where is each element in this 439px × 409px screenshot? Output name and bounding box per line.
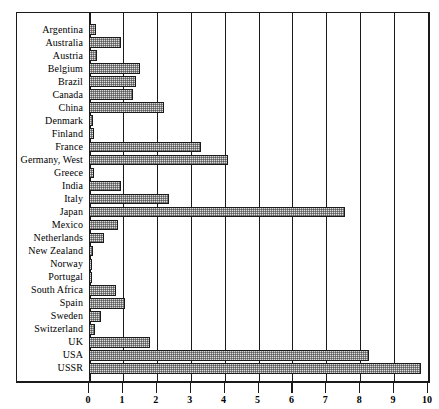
category-label: India [62, 181, 83, 191]
bar-row: India [17, 179, 429, 192]
bar [89, 168, 94, 179]
x-axis-tick-9 [393, 382, 394, 393]
x-axis-tick-label: 8 [357, 394, 362, 406]
category-label: Norway [50, 259, 83, 269]
bar-row: Portugal [17, 271, 429, 284]
bar-row: Brazil [17, 75, 429, 88]
bar [89, 220, 118, 231]
bar-row: Italy [17, 192, 429, 205]
bar-row: Netherlands [17, 232, 429, 245]
bar-chart: ArgentinaAustraliaAustriaBelgiumBrazilCa… [0, 0, 439, 409]
bar-row: China [17, 101, 429, 114]
bar [89, 285, 116, 296]
bar-row: Austria [17, 49, 429, 62]
bar [89, 298, 125, 309]
bar [89, 63, 140, 74]
bar [89, 76, 136, 87]
category-label: Portugal [48, 272, 83, 282]
category-label: Australia [45, 38, 83, 48]
category-label: Denmark [45, 116, 83, 126]
bar-row: USA [17, 349, 429, 362]
category-label: Belgium [48, 64, 83, 74]
x-axis-tick-5 [258, 382, 259, 393]
category-label: USSR [58, 363, 83, 373]
x-axis-tick-label: 9 [391, 394, 396, 406]
bar-row: Germany, West [17, 153, 429, 166]
bar-row: New Zealand [17, 245, 429, 258]
bar-row: Norway [17, 258, 429, 271]
bar-row: France [17, 140, 429, 153]
bar-row: Spain [17, 297, 429, 310]
x-axis-tick-3 [190, 382, 191, 393]
bar-rows: ArgentinaAustraliaAustriaBelgiumBrazilCa… [17, 13, 429, 381]
category-label: Switzerland [34, 324, 83, 334]
x-axis [16, 382, 430, 394]
category-label: New Zealand [28, 246, 83, 256]
x-axis-tick-2 [156, 382, 157, 393]
plot-area: ArgentinaAustraliaAustriaBelgiumBrazilCa… [16, 12, 430, 382]
bar [89, 194, 169, 205]
category-label: Argentina [42, 25, 83, 35]
category-label: Greece [54, 168, 83, 178]
bar-row: Argentina [17, 23, 429, 36]
bar [89, 181, 121, 192]
bar [89, 233, 104, 244]
category-label: USA [63, 350, 83, 360]
x-axis-tick-label: 2 [153, 394, 158, 406]
x-axis-tick-label: 3 [187, 394, 192, 406]
x-axis-tick-label: 4 [221, 394, 226, 406]
bar [89, 363, 421, 374]
bar [89, 37, 121, 48]
bar-row: Canada [17, 88, 429, 101]
x-axis-tick-label: 0 [86, 394, 91, 406]
x-axis-tick-label: 7 [323, 394, 328, 406]
bar [89, 311, 101, 322]
bar-row: Australia [17, 36, 429, 49]
bar-row: Finland [17, 127, 429, 140]
bar-row: Belgium [17, 62, 429, 75]
category-label: Mexico [52, 220, 83, 230]
bar-row: UK [17, 336, 429, 349]
bar [89, 102, 164, 113]
bar [89, 115, 93, 126]
bar-row: Switzerland [17, 323, 429, 336]
category-label: France [55, 142, 83, 152]
bar-row: Japan [17, 206, 429, 219]
bar-row: Sweden [17, 310, 429, 323]
bar [89, 128, 94, 139]
bar [89, 246, 93, 257]
bar [89, 142, 201, 153]
category-label: Netherlands [34, 233, 83, 243]
bar [89, 207, 345, 218]
x-axis-tick-1 [122, 382, 123, 393]
bar [89, 259, 92, 270]
bar-row: South Africa [17, 284, 429, 297]
x-axis-tick-10 [427, 382, 428, 393]
bar-row: Greece [17, 166, 429, 179]
category-label: Canada [52, 90, 83, 100]
bar [89, 337, 150, 348]
x-axis-tick-labels: 012345678910 [16, 394, 430, 408]
bar [89, 350, 369, 361]
x-axis-tick-label: 1 [119, 394, 124, 406]
category-label: UK [68, 337, 83, 347]
x-axis-tick-label: 5 [255, 394, 260, 406]
bar [89, 50, 97, 61]
x-axis-tick-4 [224, 382, 225, 393]
bar-row: Mexico [17, 219, 429, 232]
category-label: Germany, West [21, 155, 83, 165]
category-label: Sweden [51, 311, 83, 321]
category-label: Brazil [58, 77, 83, 87]
category-label: Spain [60, 298, 83, 308]
x-axis-tick-label: 6 [289, 394, 294, 406]
category-label: Finland [52, 129, 83, 139]
x-axis-tick-label: 10 [422, 394, 432, 406]
bar [89, 24, 96, 35]
x-axis-tick-8 [359, 382, 360, 393]
bar-row: USSR [17, 362, 429, 375]
category-label: Italy [64, 194, 83, 204]
bar [89, 155, 228, 166]
category-label: Japan [60, 207, 83, 217]
bar [89, 324, 95, 335]
x-axis-tick-7 [325, 382, 326, 393]
